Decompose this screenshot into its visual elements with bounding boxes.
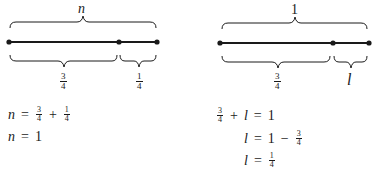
fraction-denominator: 4 [61, 82, 66, 91]
fraction-denominator: 4 [270, 161, 274, 169]
eq-minus: − [281, 131, 289, 147]
right-bottom-brace-2 [334, 56, 367, 68]
fraction: 3 4 [36, 106, 42, 123]
right-seg1-label: 3 4 [274, 72, 281, 91]
eq-equals: = [254, 153, 262, 169]
fraction-denominator: 4 [218, 116, 222, 124]
eq-plus: + [49, 107, 57, 123]
eq-plus: + [230, 108, 238, 124]
left-equation-2: n = 1 [8, 129, 42, 145]
fraction: 1 4 [64, 106, 70, 123]
eq-variable: l [244, 108, 248, 124]
right-seg2-label: l [347, 71, 351, 89]
eq-variable: l [244, 131, 248, 147]
right-point-mid [330, 40, 335, 45]
eq-equals: = [21, 107, 29, 123]
fraction: 3 4 [217, 107, 223, 124]
right-top-brace [222, 17, 367, 29]
left-bottom-brace-1 [10, 55, 117, 67]
eq-equals: = [254, 131, 262, 147]
eq-value: 1 [268, 108, 275, 124]
fraction-denominator: 4 [37, 115, 41, 123]
right-equation-3: l = 1 4 [244, 152, 276, 169]
eq-equals: = [21, 129, 29, 145]
left-point-mid [116, 39, 121, 44]
right-point-end [366, 40, 371, 45]
fraction: 3 4 [296, 130, 302, 147]
right-top-label: 1 [291, 2, 298, 18]
fraction: 1 4 [269, 152, 275, 169]
right-equation-2: l = 1 − 3 4 [244, 130, 303, 147]
left-bottom-brace-2 [120, 55, 156, 67]
diagram-lines [0, 0, 375, 181]
eq-value: 1 [268, 131, 275, 147]
left-equation-1: n = 3 4 + 1 4 [8, 106, 71, 123]
fraction-denominator: 4 [275, 82, 280, 91]
fraction-denominator: 4 [137, 82, 142, 91]
fraction-denominator: 4 [65, 115, 69, 123]
eq-variable: n [8, 107, 15, 123]
right-point-start [217, 40, 222, 45]
eq-variable: l [244, 153, 248, 169]
right-equation-1: 3 4 + l = 1 [216, 107, 275, 124]
right-bottom-brace-1 [222, 56, 330, 68]
left-seg1-label: 3 4 [60, 72, 67, 91]
left-point-start [6, 39, 11, 44]
left-top-label: n [78, 1, 85, 17]
left-seg2-label: 1 4 [136, 72, 143, 91]
eq-equals: = [254, 108, 262, 124]
fraction-denominator: 4 [297, 139, 301, 147]
eq-variable: n [8, 129, 15, 145]
left-top-brace [10, 16, 156, 28]
left-point-end [154, 39, 159, 44]
eq-value: 1 [35, 129, 42, 145]
